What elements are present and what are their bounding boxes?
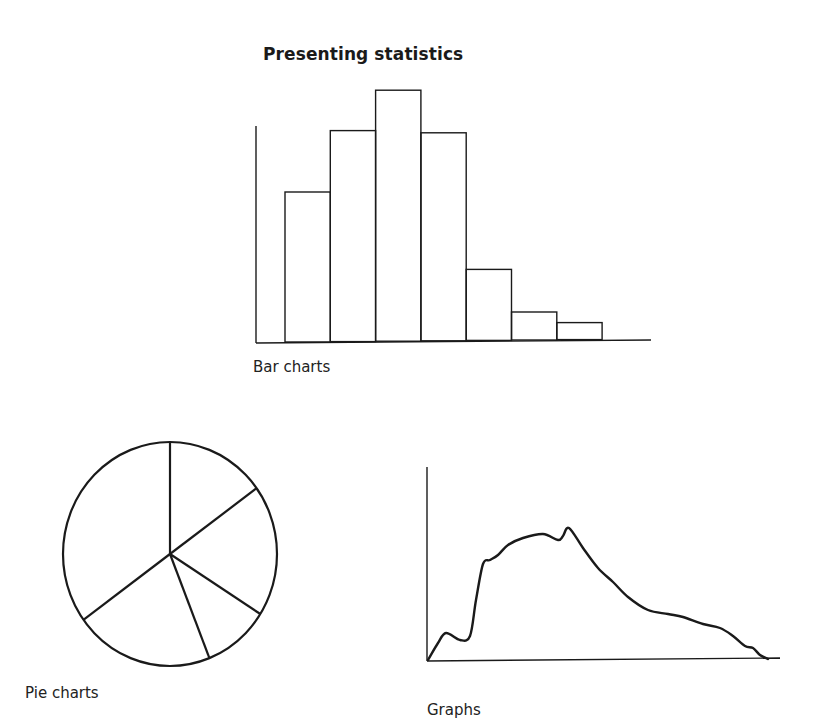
bar (376, 90, 421, 341)
bar (421, 133, 466, 341)
bar-group (285, 90, 602, 342)
pie-slice-divider (83, 554, 170, 620)
bar-charts-caption: Bar charts (253, 358, 330, 376)
graphs-caption: Graphs (427, 701, 481, 719)
pie-slice-divider (170, 554, 260, 614)
bar (466, 269, 511, 340)
bar (512, 312, 557, 340)
bar (330, 131, 375, 342)
pie-slice-divider (170, 554, 209, 658)
pie-charts-caption: Pie charts (25, 684, 99, 702)
line-graph (427, 467, 780, 661)
bar-chart (256, 90, 651, 343)
pie-chart (63, 442, 277, 666)
graph-x-axis (427, 658, 780, 661)
bar (557, 323, 602, 340)
bar (285, 192, 330, 342)
pie-slice-divider (170, 488, 257, 554)
graph-curve (428, 528, 768, 660)
pie-spokes (83, 442, 260, 658)
figure-canvas (0, 0, 815, 728)
